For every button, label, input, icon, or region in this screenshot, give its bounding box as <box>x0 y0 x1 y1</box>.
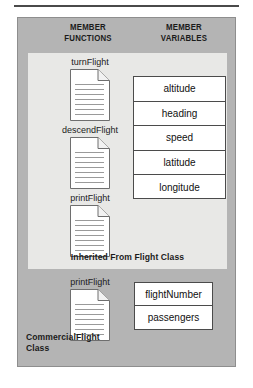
member-variable-row: flightNumber <box>135 283 212 306</box>
class-diagram-panel: MEMBER FUNCTIONS MEMBER VARIABLES turnFl… <box>17 17 236 367</box>
member-variables-line1: MEMBER <box>166 22 202 32</box>
member-function-label: printFlight <box>42 193 138 204</box>
document-icon-wrap <box>42 205 138 257</box>
member-function-label: printFlight <box>42 277 138 288</box>
commercial-member-variables-box: flightNumber passengers <box>134 282 213 330</box>
member-variables-line2: VARIABLES <box>140 33 228 44</box>
member-function-descendflight: descendFlight <box>42 125 138 189</box>
document-icon <box>70 205 110 257</box>
member-function-label: turnFlight <box>42 57 138 68</box>
document-icon <box>70 69 110 121</box>
top-divider-rule <box>14 5 239 7</box>
member-functions-line2: FUNCTIONS <box>44 33 132 44</box>
document-icon <box>70 137 110 189</box>
commercialflight-class-caption: CommercialFlight Class <box>26 332 100 354</box>
member-variable-row: passengers <box>135 306 212 329</box>
document-icon-wrap <box>42 137 138 189</box>
class-caption-line2: Class <box>26 343 100 354</box>
inherited-section-caption: Inherited From Flight Class <box>33 252 222 262</box>
member-functions-line1: MEMBER <box>70 22 106 32</box>
column-header-member-functions: MEMBER FUNCTIONS <box>44 22 132 44</box>
member-variable-row: speed <box>134 126 225 151</box>
member-variable-row: latitude <box>134 151 225 176</box>
member-variable-row: altitude <box>134 77 225 102</box>
member-function-printflight-inherited: printFlight <box>42 193 138 257</box>
inherited-member-variables-box: altitude heading speed latitude longitud… <box>133 76 226 199</box>
member-function-turnflight: turnFlight <box>42 57 138 121</box>
column-headers: MEMBER FUNCTIONS MEMBER VARIABLES <box>18 22 235 54</box>
class-caption-line1: CommercialFlight <box>26 332 100 342</box>
member-variable-row: heading <box>134 102 225 127</box>
member-variable-row: longitude <box>134 175 225 200</box>
document-icon-wrap <box>42 69 138 121</box>
column-header-member-variables: MEMBER VARIABLES <box>140 22 228 44</box>
member-function-label: descendFlight <box>42 125 138 136</box>
